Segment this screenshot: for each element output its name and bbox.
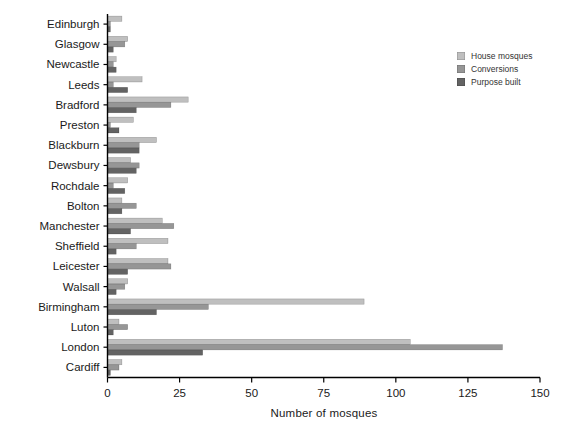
bar-conversions-rochdale	[108, 183, 114, 188]
bar-conversions-birmingham	[108, 304, 209, 309]
bar-house-mosques-bolton	[108, 198, 122, 203]
bar-house-mosques-cardiff	[108, 360, 122, 365]
bar-house-mosques-bradford	[108, 97, 189, 102]
bar-conversions-leeds	[108, 82, 114, 87]
bar-house-mosques-manchester	[108, 218, 163, 223]
category-label-rochdale: Rochdale	[51, 180, 100, 192]
bar-house-mosques-leeds	[108, 77, 143, 82]
category-label-walsall: Walsall	[63, 281, 100, 293]
bar-house-mosques-luton	[108, 319, 120, 324]
bar-purpose-built-leeds	[108, 87, 128, 92]
bar-house-mosques-leicester	[108, 259, 169, 264]
bar-purpose-built-newcastle	[108, 67, 117, 72]
category-label-dewsbury: Dewsbury	[48, 159, 99, 171]
bar-conversions-luton	[108, 324, 128, 329]
bar-conversions-newcastle	[108, 62, 114, 67]
bar-purpose-built-blackburn	[108, 148, 140, 153]
bar-house-mosques-newcastle	[108, 57, 117, 62]
category-label-leeds: Leeds	[68, 79, 100, 91]
bar-purpose-built-leicester	[108, 269, 128, 274]
category-label-leicester: Leicester	[53, 260, 100, 272]
x-tick-label-75: 75	[317, 387, 330, 399]
bar-house-mosques-blackburn	[108, 137, 157, 142]
x-tick-label-50: 50	[245, 387, 258, 399]
category-label-cardiff: Cardiff	[66, 361, 100, 373]
legend-item-house-mosques: House mosques	[457, 51, 532, 60]
category-label-newcastle: Newcastle	[46, 58, 99, 70]
category-label-bolton: Bolton	[67, 200, 100, 212]
legend: House mosquesConversionsPurpose built	[457, 51, 532, 86]
bar-purpose-built-rochdale	[108, 188, 125, 193]
legend-swatch-purpose-built	[457, 78, 465, 86]
bar-conversions-walsall	[108, 284, 125, 289]
legend-swatch-house-mosques	[457, 52, 465, 60]
bar-conversions-bolton	[108, 203, 137, 208]
legend-item-purpose-built: Purpose built	[457, 77, 532, 86]
bar-house-mosques-glasgow	[108, 36, 128, 41]
bar-purpose-built-bolton	[108, 209, 122, 214]
legend-label-house-mosques: House mosques	[471, 51, 532, 61]
chart-canvas: EdinburghGlasgowNewcastleLeedsBradfordPr…	[0, 0, 576, 446]
bar-conversions-glasgow	[108, 42, 125, 47]
bar-house-mosques-walsall	[108, 279, 128, 284]
bar-conversions-bradford	[108, 102, 171, 107]
category-label-preston: Preston	[60, 119, 100, 131]
bar-purpose-built-preston	[108, 128, 120, 133]
x-tick-label-125: 125	[458, 387, 477, 399]
bar-conversions-manchester	[108, 223, 174, 228]
legend-label-conversions: Conversions	[471, 64, 518, 74]
bar-house-mosques-rochdale	[108, 178, 128, 183]
category-label-london: London	[61, 341, 99, 353]
bar-house-mosques-dewsbury	[108, 158, 131, 163]
legend-swatch-conversions	[457, 65, 465, 73]
bar-conversions-cardiff	[108, 365, 120, 370]
legend-label-purpose-built: Purpose built	[471, 77, 521, 87]
bar-purpose-built-sheffield	[108, 249, 117, 254]
bar-purpose-built-walsall	[108, 289, 117, 294]
bar-purpose-built-bradford	[108, 108, 137, 113]
category-label-glasgow: Glasgow	[55, 38, 100, 50]
x-tick-label-25: 25	[173, 387, 186, 399]
bar-house-mosques-birmingham	[108, 299, 365, 304]
bar-purpose-built-glasgow	[108, 47, 114, 52]
bar-purpose-built-birmingham	[108, 310, 157, 315]
bar-purpose-built-luton	[108, 330, 114, 335]
category-label-blackburn: Blackburn	[48, 139, 99, 151]
bar-purpose-built-manchester	[108, 229, 131, 234]
bar-conversions-dewsbury	[108, 163, 140, 168]
bar-purpose-built-london	[108, 350, 203, 355]
category-label-bradford: Bradford	[55, 99, 99, 111]
bar-conversions-blackburn	[108, 143, 140, 148]
x-tick-label-0: 0	[104, 387, 110, 399]
bar-house-mosques-sheffield	[108, 238, 169, 243]
category-label-luton: Luton	[71, 321, 100, 333]
x-tick-label-100: 100	[386, 387, 405, 399]
bar-conversions-london	[108, 345, 503, 350]
legend-item-conversions: Conversions	[457, 64, 532, 73]
category-label-edinburgh: Edinburgh	[47, 18, 99, 30]
x-tick-label-150: 150	[530, 387, 549, 399]
category-label-birmingham: Birmingham	[38, 301, 99, 313]
category-label-sheffield: Sheffield	[55, 240, 100, 252]
bar-house-mosques-preston	[108, 117, 134, 122]
bar-house-mosques-edinburgh	[108, 16, 122, 21]
bar-conversions-sheffield	[108, 244, 137, 249]
x-axis-title: Number of mosques	[107, 407, 541, 419]
bar-conversions-leicester	[108, 264, 171, 269]
category-label-manchester: Manchester	[39, 220, 99, 232]
bar-purpose-built-dewsbury	[108, 168, 137, 173]
bar-house-mosques-london	[108, 339, 411, 344]
